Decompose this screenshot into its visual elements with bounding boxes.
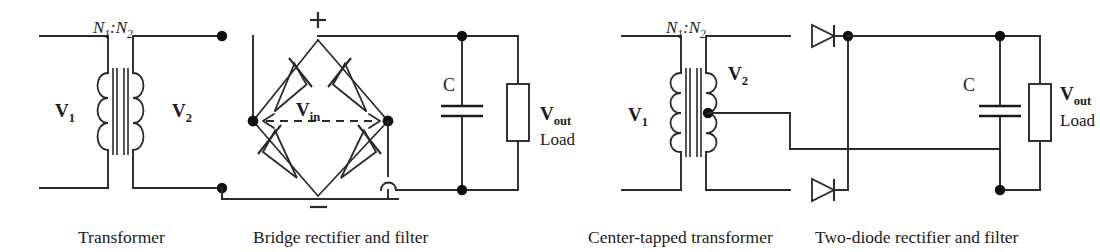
left-bridge-rectifier (248, 40, 394, 196)
right-output-bottom-node (995, 185, 1005, 195)
right-primary-coil (671, 73, 682, 152)
right-vout-label: Vout (1060, 83, 1092, 108)
secondary-bottom-lead (133, 150, 222, 188)
left-load-box (507, 84, 529, 141)
rectifier-figure: N1:N2 V1 V2 (0, 0, 1100, 252)
right-primary-bottom-lead (622, 152, 681, 190)
primary-top-lead (40, 36, 108, 73)
bridge-left-node (248, 116, 259, 127)
right-bottom-diode-out (834, 36, 848, 190)
right-v1-label: V1 (628, 104, 648, 129)
left-load-resistor (462, 36, 529, 190)
right-circuit-group: N1:N2 V1 V2 C (588, 18, 1095, 247)
center-tap-return-wire (708, 113, 1000, 190)
wire-hop-left (381, 183, 396, 191)
right-load-label: Load (1060, 111, 1095, 130)
left-capacitor (441, 36, 483, 190)
left-v1-label: V1 (55, 100, 75, 125)
left-transformer-caption: Transformer (78, 227, 165, 247)
right-capacitor-label: C (963, 75, 975, 95)
left-capacitor-label: C (443, 75, 455, 95)
left-output-top-node (457, 31, 467, 41)
left-secondary-top-node (217, 31, 227, 41)
right-output-top-node (995, 31, 1005, 41)
bridge-arm-bottom-left (253, 121, 318, 196)
bridge-arm-bottom-right (318, 121, 388, 196)
right-load-top-lead (1000, 36, 1040, 84)
circuit-schematic-svg: N1:N2 V1 V2 (0, 0, 1100, 252)
left-load-bottom-lead (462, 141, 518, 190)
right-turns-ratio-label: N1:N2 (665, 18, 706, 40)
left-load-top-lead (462, 36, 518, 84)
right-rectifier-caption: Two-diode rectifier and filter (815, 227, 1019, 247)
right-load-resistor (1000, 36, 1051, 190)
right-v2-label: V2 (728, 63, 748, 88)
primary-coil (98, 73, 109, 150)
left-v2-label: V2 (172, 100, 192, 125)
left-rectifier-caption: Bridge rectifier and filter (253, 227, 429, 247)
bridge-plus-sign (310, 12, 326, 28)
left-vout-label: Vout (540, 103, 572, 128)
right-load-box (1029, 84, 1051, 141)
left-circuit-group: N1:N2 V1 V2 (40, 12, 575, 247)
left-load-label: Load (540, 130, 575, 149)
right-primary-top-lead (622, 36, 681, 73)
secondary-coil (133, 73, 144, 150)
left-turns-ratio-label: N1:N2 (92, 18, 133, 40)
right-diode-bottom (812, 179, 834, 201)
right-transformer-caption: Center-tapped transformer (588, 227, 773, 247)
right-secondary-top-lead (706, 36, 790, 73)
secondary-top-lead (133, 36, 222, 73)
left-output-bottom-node (457, 185, 467, 195)
bridge-bottom-feed-wire (222, 188, 398, 199)
right-diode-top (812, 25, 834, 47)
right-secondary-bottom-lead (706, 152, 790, 190)
diode-bottom-right (341, 125, 381, 178)
diode-top-right (328, 58, 367, 112)
right-capacitor (979, 36, 1021, 190)
primary-bottom-lead (40, 150, 108, 188)
